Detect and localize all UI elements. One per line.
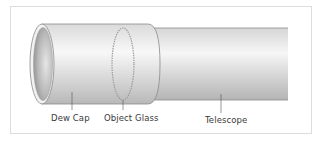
dew-cap-tube: [42, 24, 160, 104]
label-object-glass: Object Glass: [104, 113, 159, 123]
telescope-illustration: [0, 0, 322, 143]
telescope-tube: [150, 28, 288, 100]
label-dew-cap: Dew Cap: [51, 113, 90, 123]
label-telescope: Telescope: [205, 115, 247, 125]
diagram-canvas: Dew Cap Object Glass Telescope: [0, 0, 322, 143]
dew-cap-opening: [30, 24, 54, 104]
